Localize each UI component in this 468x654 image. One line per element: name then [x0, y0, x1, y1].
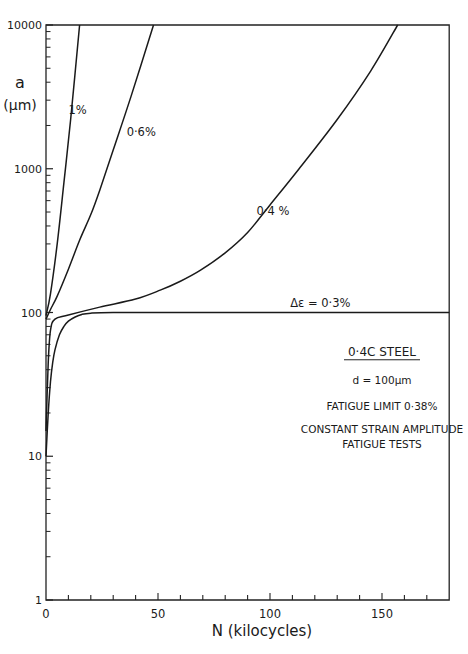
- curve-labels: 1%0·6%0·4 %Δε = 0·3%: [68, 103, 350, 309]
- data-curves: [46, 25, 449, 456]
- curve-label: 1%: [68, 103, 86, 117]
- y-tick-label: 1000: [14, 163, 42, 176]
- annotation-text: FATIGUE LIMIT 0·38%: [327, 400, 438, 412]
- y-tick-label: 10000: [7, 19, 42, 32]
- annotation-text: FATIGUE TESTS: [342, 438, 422, 450]
- annotation-text: 0·4C STEEL: [348, 345, 416, 359]
- curve-label: 0·6%: [127, 125, 156, 139]
- x-tick-label: 50: [151, 607, 166, 621]
- x-tick-label: 100: [259, 607, 281, 621]
- y-tick-label: 1: [35, 594, 42, 607]
- curve-label: 0·4 %: [257, 204, 290, 218]
- annotation-text: CONSTANT STRAIN AMPLITUDE: [301, 423, 463, 435]
- annotation-text: d = 100μm: [352, 374, 411, 386]
- y-tick-label: 10: [28, 450, 42, 463]
- chart: 110100100010000050100150 1%0·6%0·4 %Δε =…: [0, 0, 468, 654]
- x-tick-label: 0: [42, 607, 49, 621]
- y-tick-label: 100: [21, 307, 42, 320]
- curve-label: Δε = 0·3%: [290, 296, 350, 310]
- curve-line: [46, 25, 398, 431]
- curve-line: [46, 25, 80, 316]
- x-tick-label: 150: [371, 607, 393, 621]
- curve-line: [46, 25, 154, 319]
- y-axis-label-symbol: a: [15, 73, 25, 92]
- y-axis-label-unit: (μm): [3, 97, 36, 113]
- x-axis-label: N (kilocycles): [212, 622, 312, 640]
- annotations: 0·4C STEELd = 100μmFATIGUE LIMIT 0·38%CO…: [301, 345, 463, 450]
